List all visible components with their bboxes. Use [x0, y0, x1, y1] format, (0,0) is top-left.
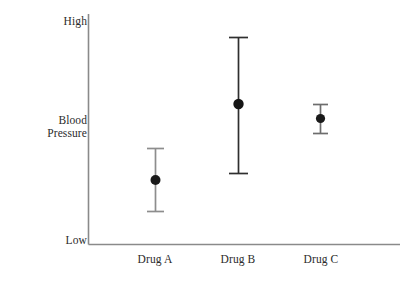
- y-axis-title-blood-pressure: Blood Pressure: [47, 114, 87, 139]
- mean-marker-drug-c: [316, 114, 325, 123]
- x-axis-label-drug-c: Drug C: [281, 253, 361, 266]
- y-axis-label-low: Low: [66, 234, 87, 247]
- y-axis-label-high: High: [64, 15, 87, 28]
- error-bar-drug-b: [229, 38, 248, 174]
- error-bar-drug-a: [147, 149, 164, 212]
- chart-plot-area: [0, 0, 417, 286]
- error-bar-chart: High Blood Pressure Low Drug A Drug B Dr…: [0, 0, 417, 286]
- error-bar-drug-c: [313, 105, 328, 134]
- x-axis-label-drug-b: Drug B: [198, 253, 278, 266]
- x-axis-label-drug-a: Drug A: [115, 253, 195, 266]
- mean-marker-drug-b: [233, 99, 243, 109]
- mean-marker-drug-a: [151, 175, 161, 185]
